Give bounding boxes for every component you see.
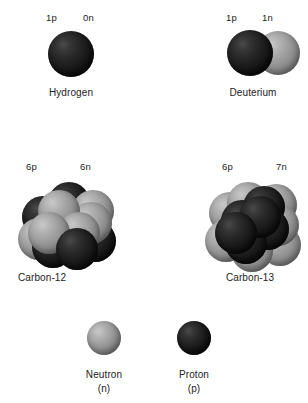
deuterium-caption: Deuterium xyxy=(203,87,303,98)
legend-proton-symbol: (p) xyxy=(144,383,244,394)
hydrogen-caption: Hydrogen xyxy=(21,87,121,98)
legend-neutron-name: Neutron xyxy=(54,369,154,380)
carbon-12-neutron-count-label: 6n xyxy=(80,161,91,172)
deuterium-proton-count-label: 1p xyxy=(226,12,237,23)
hydrogen-proton-count-label: 1p xyxy=(46,12,57,23)
carbon-12-proton-sphere xyxy=(56,228,98,270)
legend-proton-name: Proton xyxy=(144,369,244,380)
deuterium-neutron-count-label: 1n xyxy=(262,12,273,23)
carbon-13-proton-sphere xyxy=(215,212,257,254)
carbon-13-nucleus xyxy=(205,182,305,270)
carbon-13-neutron-count-label: 7n xyxy=(276,161,287,172)
carbon-12-nucleus xyxy=(18,182,118,270)
legend-neutron-symbol: (n) xyxy=(54,383,154,394)
carbon-13-caption: Carbon-13 xyxy=(200,272,300,283)
carbon-13-proton-count-label: 6p xyxy=(222,161,233,172)
carbon-12-caption: Carbon-12 xyxy=(18,272,118,283)
carbon-12-proton-count-label: 6p xyxy=(26,161,37,172)
hydrogen-proton-sphere xyxy=(48,31,94,77)
isotope-diagram: 1p 0n Hydrogen 1p 1n Deuterium 6p 6n xyxy=(0,0,308,403)
legend-neutron-sphere xyxy=(87,321,121,355)
deuterium-proton-sphere xyxy=(227,30,273,76)
hydrogen-neutron-count-label: 0n xyxy=(83,12,94,23)
legend-proton-sphere xyxy=(177,321,211,355)
